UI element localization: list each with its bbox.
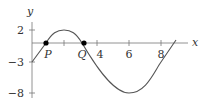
x-tick-label-4: 4 bbox=[97, 48, 104, 61]
y-tick-label-m3: −3 bbox=[8, 56, 24, 69]
point-p bbox=[43, 40, 48, 45]
y-tick-label-2: 2 bbox=[17, 24, 24, 37]
point-p-label: P bbox=[43, 48, 52, 61]
y-axis-label: y bbox=[26, 5, 34, 18]
chart: y x 4 6 8 2 −3 −8 P Q bbox=[0, 0, 203, 112]
x-tick-label-6: 6 bbox=[126, 48, 133, 61]
point-q-label: Q bbox=[77, 48, 86, 61]
y-tick-label-m8: −8 bbox=[8, 87, 24, 100]
point-q bbox=[81, 40, 86, 45]
x-tick-label-8: 8 bbox=[158, 48, 165, 61]
x-axis-label: x bbox=[192, 36, 199, 49]
curve-line bbox=[32, 30, 176, 93]
